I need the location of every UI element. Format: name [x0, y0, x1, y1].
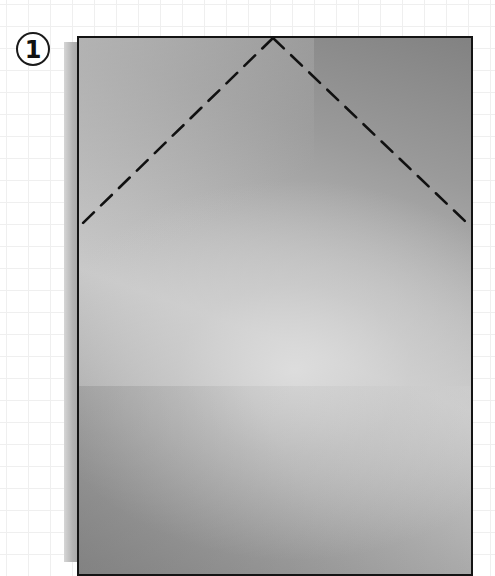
paper-highlight — [79, 38, 314, 279]
paper-sheet — [77, 36, 473, 576]
step-number: 1 — [25, 38, 42, 62]
paper-shadow — [64, 42, 78, 562]
paper-shading — [79, 386, 471, 574]
step-number-badge: 1 — [16, 32, 50, 66]
